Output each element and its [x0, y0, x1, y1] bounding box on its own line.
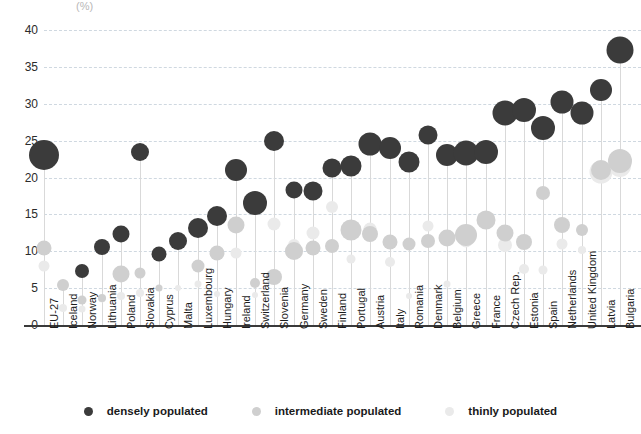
x-axis-tick-label: Malta [182, 302, 194, 329]
data-bubble [512, 98, 536, 122]
gridline [44, 288, 641, 289]
data-bubble [209, 246, 224, 261]
stem-line [140, 152, 141, 325]
legend-item-thin[interactable]: thinly populated [445, 405, 557, 417]
data-bubble [570, 101, 593, 124]
x-axis-tick-label: EU-27 [48, 298, 60, 329]
data-bubble [214, 291, 220, 297]
y-axis-tick-label: 20 [8, 171, 38, 185]
x-axis-tick-label: Finland [336, 293, 348, 329]
data-bubble [536, 186, 550, 200]
data-bubble [474, 140, 498, 164]
data-bubble [175, 285, 181, 291]
legend-item-dense[interactable]: densely populated [84, 405, 208, 417]
stem-line [486, 152, 487, 325]
x-axis-tick-label: Latvia [605, 300, 617, 329]
data-bubble [362, 226, 378, 242]
gridline [44, 178, 641, 179]
stem-line [543, 128, 544, 325]
data-bubble [194, 281, 201, 288]
data-bubble [419, 126, 438, 145]
x-axis-tick-label: Belgium [451, 289, 463, 329]
data-bubble [323, 158, 342, 177]
data-bubble [79, 305, 86, 312]
data-bubble [326, 201, 338, 213]
bubble-chart: (%) 4035302520151050 EU-27IcelandNorwayL… [0, 0, 641, 434]
gridline [44, 141, 641, 142]
x-axis-tick-label: Cyprus [163, 294, 175, 329]
x-axis-tick-label: Czech Rep. [509, 272, 521, 329]
data-bubble [531, 116, 555, 140]
data-bubble [398, 152, 419, 173]
y-axis-unit-label: (%) [76, 0, 93, 12]
data-bubble [112, 266, 129, 283]
x-axis-tick-label: Switzerland [259, 272, 271, 329]
data-bubble [539, 265, 548, 274]
x-axis-tick-label: Bulgaria [624, 289, 636, 329]
x-axis-tick-label: Sweden [317, 289, 329, 329]
x-axis-tick-label: Slovenia [278, 287, 290, 329]
x-axis-tick-label: Ireland [240, 295, 252, 329]
data-bubble [406, 293, 412, 299]
stem-line [582, 113, 583, 325]
x-axis-tick-label: Estonia [528, 292, 540, 329]
data-bubble [402, 237, 415, 250]
y-axis-tick-label: 40 [8, 23, 38, 37]
gridline [44, 251, 641, 252]
data-bubble [252, 292, 258, 298]
data-bubble [156, 285, 163, 292]
legend-swatch-icon [84, 407, 93, 416]
data-bubble [444, 280, 451, 287]
data-bubble [59, 304, 67, 312]
data-bubble [607, 36, 634, 63]
legend-item-intermediate[interactable]: intermediate populated [252, 405, 402, 417]
y-axis-tick-label: 30 [8, 97, 38, 111]
data-bubble [225, 159, 247, 181]
x-axis-tick-label: Luxembourg [202, 268, 214, 329]
data-bubble [423, 221, 434, 232]
gridline [44, 67, 641, 68]
stem-line [178, 241, 179, 325]
data-bubble [455, 224, 477, 246]
stem-line [351, 166, 352, 325]
data-bubble [590, 79, 612, 101]
stem-line [255, 203, 256, 325]
data-bubble [75, 264, 89, 278]
x-axis-tick-label: Netherlands [566, 270, 578, 329]
data-bubble [576, 224, 588, 236]
data-bubble [516, 234, 532, 250]
data-bubble [268, 217, 281, 230]
x-axis-tick-label: Romania [413, 285, 425, 329]
stem-line [313, 191, 314, 325]
x-axis-tick-label: Denmark [432, 284, 444, 329]
data-bubble [94, 239, 110, 255]
data-bubble [347, 255, 356, 264]
stem-line [198, 228, 199, 325]
stem-line [562, 102, 563, 325]
x-axis-tick-label: Poland [125, 295, 137, 329]
stem-line [524, 110, 525, 325]
x-axis-tick-label: Slovakia [144, 287, 156, 329]
data-bubble [305, 241, 320, 256]
data-bubble [57, 279, 69, 291]
x-axis-tick-label: Portugal [355, 288, 367, 329]
data-bubble [608, 149, 632, 173]
x-axis-tick-label: Italy [394, 309, 406, 329]
data-bubble [439, 229, 456, 246]
legend-swatch-icon [445, 407, 454, 416]
stem-line [601, 90, 602, 325]
x-axis-tick-label: Lithuania [106, 284, 118, 329]
x-axis-tick-label: Greece [470, 293, 482, 329]
x-axis-tick-label: France [490, 295, 502, 329]
data-bubble [382, 234, 397, 249]
data-bubble [169, 232, 187, 250]
data-bubble [243, 191, 267, 215]
data-bubble [341, 219, 362, 240]
data-bubble [152, 247, 167, 262]
y-axis-tick-label: 5 [8, 281, 38, 295]
data-bubble [285, 242, 303, 260]
data-bubble [554, 217, 570, 233]
data-bubble [303, 181, 322, 200]
x-axis-tick-label: United Kingdom [586, 251, 598, 329]
y-axis-tick-label: 35 [8, 60, 38, 74]
